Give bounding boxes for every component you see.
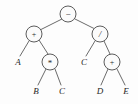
tree-edge: [101, 69, 108, 85]
expression-tree-figure: −+/*+ ABCCDE: [0, 0, 138, 104]
tree-node-plus[interactable]: +: [26, 26, 42, 42]
leaf-label-b: B: [33, 86, 39, 96]
tree-edge: [75, 19, 95, 29]
tree-node-divide[interactable]: /: [92, 26, 108, 42]
leaf-label-d: D: [96, 86, 104, 96]
leaf-label-e: E: [122, 86, 129, 96]
leaf-label-c: C: [81, 57, 88, 67]
tree-edge: [38, 69, 46, 85]
tree-node-plus[interactable]: +: [104, 54, 120, 70]
node-operator-label: +: [110, 58, 115, 67]
leaf-label-a: A: [14, 57, 21, 67]
tree-node-minus[interactable]: −: [60, 6, 76, 22]
tree-edge: [117, 69, 125, 85]
tree-edge: [104, 41, 110, 54]
tree-edge: [86, 41, 95, 56]
tree-edge: [20, 41, 29, 56]
tree-canvas: −+/*+ ABCCDE: [0, 0, 138, 104]
node-operator-label: +: [32, 30, 37, 39]
node-operator-label: *: [48, 58, 53, 68]
tree-node-multiply[interactable]: *: [42, 54, 58, 70]
tree-edge: [39, 40, 48, 54]
node-operator-label: −: [65, 9, 70, 19]
tree-edge: [55, 69, 61, 85]
tree-nodes-group: −+/*+: [26, 6, 120, 70]
leaf-label-c: C: [59, 86, 66, 96]
tree-edge: [40, 19, 62, 30]
